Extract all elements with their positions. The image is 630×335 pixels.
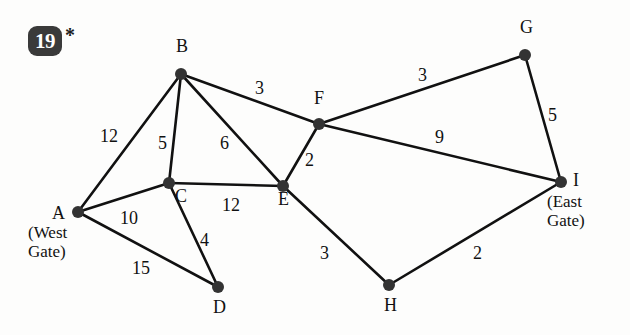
graph-edge-weight-e-h: 3 — [320, 243, 329, 264]
graph-node-label-b: B — [176, 36, 188, 57]
graph-edge-b-e — [181, 74, 283, 186]
graph-node-sublabel-i: (EastGate) — [547, 192, 585, 230]
graph-edge-weight-f-g: 3 — [418, 65, 427, 86]
graph-edge-e-h — [283, 186, 389, 285]
graph-edge-weight-e-f: 2 — [305, 150, 314, 171]
graph-node-label-a: A — [52, 203, 65, 224]
graph-node-f — [313, 118, 325, 130]
graph-edge-weight-b-c: 5 — [158, 133, 167, 154]
sublabel-line-2: Gate) — [28, 242, 67, 261]
graph-node-i — [555, 176, 567, 188]
graph-edge-b-c — [169, 74, 181, 183]
graph-edge-weight-h-i: 2 — [473, 243, 482, 264]
graph-node-a — [72, 206, 84, 218]
graph-edge-weight-c-e: 12 — [222, 195, 240, 216]
graph-edge-b-f — [181, 74, 319, 124]
graph-node-label-d: D — [213, 297, 226, 318]
sublabel-line-1: (East — [547, 192, 585, 211]
graph-node-label-i: I — [573, 170, 579, 191]
graph-edge-weight-b-e: 6 — [220, 133, 229, 154]
graph-edge-weight-b-f: 3 — [255, 78, 264, 99]
graph-node-b — [175, 68, 187, 80]
sublabel-line-1: (West — [28, 223, 67, 242]
graph-node-d — [212, 281, 224, 293]
graph-edge-weight-f-i: 9 — [435, 127, 444, 148]
figure-canvas: 19 * A(WestGate)BCDEFGHI(EastGate)121015… — [0, 0, 630, 335]
graph-edge-weight-g-i: 5 — [548, 105, 557, 126]
graph-node-label-f: F — [314, 88, 324, 109]
graph-edge-weight-a-b: 12 — [100, 126, 118, 147]
graph-node-g — [519, 49, 531, 61]
graph-node-label-c: C — [175, 186, 187, 207]
sublabel-line-2: Gate) — [547, 211, 585, 230]
graph-node-c — [163, 177, 175, 189]
graph-node-sublabel-a: (WestGate) — [28, 223, 67, 261]
graph-node-h — [383, 279, 395, 291]
graph-node-label-g: G — [520, 17, 533, 38]
graph-node-label-h: H — [384, 295, 397, 316]
graph-edge-weight-a-d: 15 — [132, 258, 150, 279]
graph-edge-weight-c-d: 4 — [200, 230, 209, 251]
graph-edges-and-nodes — [0, 0, 630, 335]
graph-edge-h-i — [389, 182, 561, 285]
graph-node-label-e: E — [278, 189, 289, 210]
graph-edge-weight-a-c: 10 — [120, 208, 138, 229]
